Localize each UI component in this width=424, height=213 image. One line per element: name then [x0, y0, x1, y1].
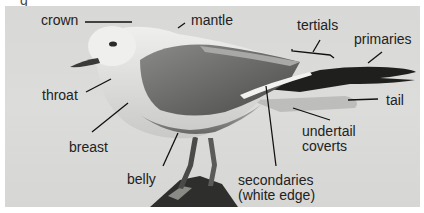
- label-undertail-coverts-1: undertail: [302, 124, 356, 139]
- eye: [109, 41, 117, 46]
- label-mantle: mantle: [191, 13, 233, 28]
- label-undertail-coverts-2: coverts: [302, 139, 347, 154]
- label-crown: crown: [41, 13, 78, 28]
- tertials-bracket: [292, 49, 334, 58]
- label-secondaries-2: (white edge): [238, 188, 315, 203]
- rock: [150, 176, 238, 207]
- tertials-stem: [313, 40, 320, 52]
- tail: [250, 96, 357, 112]
- label-throat: throat: [42, 88, 78, 103]
- primaries-line: [368, 52, 382, 63]
- bird-anatomy-figure: g: [0, 0, 424, 213]
- label-belly: belly: [127, 172, 156, 187]
- label-secondaries-1: secondaries: [238, 173, 314, 188]
- mantle-line: [178, 23, 185, 28]
- label-tail: tail: [386, 93, 404, 108]
- label-primaries: primaries: [354, 32, 412, 47]
- secondaries-line: [266, 86, 276, 166]
- belly-line: [163, 133, 178, 166]
- label-breast: breast: [69, 140, 108, 155]
- beak: [70, 58, 100, 67]
- label-tertials: tertials: [297, 18, 338, 33]
